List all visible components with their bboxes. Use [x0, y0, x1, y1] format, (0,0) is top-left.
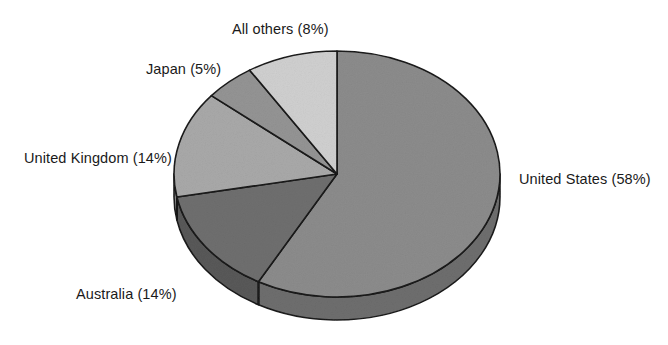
slice-label-united-kingdom: United Kingdom (14%)	[24, 151, 172, 166]
slice-label-all-others: All others (8%)	[232, 22, 329, 37]
pie-chart-figure: All others (8%) Japan (5%) United Kingdo…	[0, 0, 668, 345]
slice-label-japan: Japan (5%)	[146, 62, 221, 77]
slice-label-australia: Australia (14%)	[76, 287, 177, 302]
pie-slices-group	[174, 51, 500, 320]
pie-slice-tops	[174, 51, 500, 297]
slice-label-united-states: United States (58%)	[519, 172, 651, 187]
